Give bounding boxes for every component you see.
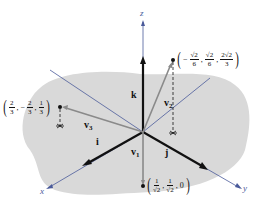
point-p1-label: ( 1√2 , 1√2 , 0 ) bbox=[146, 176, 191, 194]
v2-label-sub: 2 bbox=[169, 102, 173, 110]
point-p2-label: ( − √26 , √26 , 2√23 ) bbox=[176, 50, 240, 68]
p1-y: 1√2 bbox=[166, 177, 173, 194]
paren-open: ( bbox=[177, 50, 181, 68]
point-p3 bbox=[58, 105, 62, 109]
comma: , bbox=[216, 55, 218, 64]
den: √2 bbox=[153, 186, 160, 194]
num: 1 bbox=[154, 177, 160, 186]
den: 3 bbox=[28, 108, 32, 116]
paren-open: ( bbox=[3, 98, 7, 116]
num: √2 bbox=[205, 51, 214, 60]
den: 3 bbox=[225, 60, 229, 68]
num: √2 bbox=[190, 51, 199, 60]
paren-open: ( bbox=[147, 176, 151, 194]
comma: , bbox=[201, 55, 203, 64]
comma: , bbox=[17, 103, 19, 112]
num: 2 bbox=[27, 99, 33, 108]
paren-close: ) bbox=[46, 98, 50, 116]
v2-label: v2 bbox=[164, 97, 173, 110]
p2-y: √26 bbox=[205, 51, 214, 68]
p1-z: 0 bbox=[180, 181, 184, 190]
den: 3 bbox=[10, 108, 14, 116]
p3-y: 23 bbox=[27, 99, 33, 116]
paren-close: ) bbox=[186, 176, 190, 194]
den: 3 bbox=[40, 108, 44, 116]
point-p2 bbox=[171, 58, 175, 62]
v2-arrowhead bbox=[168, 61, 173, 68]
p3-z: 13 bbox=[39, 99, 45, 116]
x-axis-label: x bbox=[40, 186, 44, 196]
minus-sign: − bbox=[183, 55, 188, 64]
den: 6 bbox=[208, 60, 212, 68]
p1-x: 1√2 bbox=[153, 177, 160, 194]
z-axis-arrow bbox=[141, 20, 145, 26]
num: 1 bbox=[39, 99, 45, 108]
y-axis-label: y bbox=[243, 183, 247, 193]
comma: , bbox=[176, 181, 178, 190]
p2-x: √26 bbox=[190, 51, 199, 68]
point-p1 bbox=[141, 184, 145, 188]
v1-label-sub: 1 bbox=[136, 151, 140, 159]
p2-z: 2√23 bbox=[220, 51, 233, 68]
p3-x: 23 bbox=[9, 99, 15, 116]
den: 6 bbox=[192, 60, 196, 68]
comma: , bbox=[162, 181, 164, 190]
num: 2√2 bbox=[220, 51, 233, 60]
i-label: i bbox=[96, 136, 99, 147]
num: 1 bbox=[167, 177, 173, 186]
paren-close: ) bbox=[235, 50, 239, 68]
k-label: k bbox=[131, 89, 137, 100]
point-p3-label: ( 23 , − 23 , 13 ) bbox=[2, 98, 51, 116]
den: √2 bbox=[166, 186, 173, 194]
z-axis-label: z bbox=[140, 8, 144, 18]
y-axis-arrow bbox=[235, 183, 242, 189]
j-label: j bbox=[165, 147, 168, 158]
k-arrowhead bbox=[140, 56, 146, 64]
num: 2 bbox=[9, 99, 15, 108]
minus-sign: − bbox=[21, 103, 26, 112]
v3-label: v3 bbox=[84, 119, 93, 132]
v1-label: v1 bbox=[131, 146, 140, 159]
comma: , bbox=[35, 103, 37, 112]
v3-label-sub: 3 bbox=[89, 124, 93, 132]
